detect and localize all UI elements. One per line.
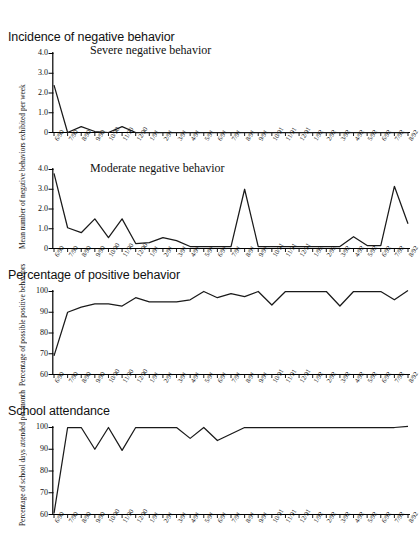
y-tick: 100 xyxy=(36,286,48,295)
plot-moderate xyxy=(52,168,412,250)
data-line-attendance xyxy=(54,426,408,513)
plot-svg-severe xyxy=(52,52,412,134)
plot-positive xyxy=(52,290,412,376)
axis-lines xyxy=(53,426,410,515)
y-tick: 3.0 xyxy=(38,68,48,77)
panel-moderate: 4.0 3.0 2.0 1.0 0 Moderate negative beha… xyxy=(0,160,420,270)
data-line-moderate xyxy=(54,173,408,246)
y-tick: 3.0 xyxy=(38,184,48,193)
panel-title-incidence: Incidence of negative behavior xyxy=(8,30,175,44)
x-axis-labels-positive: 6/907/908/909/9010/9011/9012/901/912/913… xyxy=(52,378,412,402)
data-line-severe xyxy=(54,85,408,132)
figure-root: Incidence of negative behavior Mean numb… xyxy=(0,0,420,556)
axis-lines xyxy=(53,290,410,375)
axis-lines xyxy=(53,168,410,249)
axis-lines xyxy=(53,52,410,133)
plot-svg-positive xyxy=(52,290,412,376)
plot-attendance xyxy=(52,426,412,516)
y-tick: 4.0 xyxy=(38,164,48,173)
y-tick: 0 xyxy=(44,244,48,253)
y-axis-label-attendance: Percentage of school days attended per m… xyxy=(18,426,27,526)
y-tick: 90 xyxy=(40,307,48,316)
y-axis-label-positive: Percentage of possible positive behavior… xyxy=(18,290,27,386)
panel-positive: Percentage of positive behavior Percenta… xyxy=(0,268,420,404)
x-axis-labels-severe: 6/907/908/909/9010/9011/9012/901/912/913… xyxy=(52,136,412,160)
y-tick: 1.0 xyxy=(38,224,48,233)
y-tick: 4.0 xyxy=(38,48,48,57)
data-line-positive xyxy=(54,290,408,355)
y-tick: 70 xyxy=(40,349,48,358)
y-tick: 2.0 xyxy=(38,204,48,213)
panel-severe: Incidence of negative behavior Mean numb… xyxy=(0,30,420,160)
y-tick: 60 xyxy=(40,370,48,379)
y-tick: 90 xyxy=(40,444,48,453)
x-axis-labels-attendance: 6/907/908/909/9010/9011/9012/901/912/913… xyxy=(52,518,412,542)
y-tick: 80 xyxy=(40,328,48,337)
y-tick: 2.0 xyxy=(38,88,48,97)
y-tick: 80 xyxy=(40,466,48,475)
y-tick: 70 xyxy=(40,488,48,497)
plot-severe xyxy=(52,52,412,134)
y-tick: 0 xyxy=(44,128,48,137)
plot-svg-attendance xyxy=(52,426,412,516)
panel-title-positive: Percentage of positive behavior xyxy=(8,268,180,282)
plot-svg-moderate xyxy=(52,168,412,250)
y-tick: 1.0 xyxy=(38,108,48,117)
y-tick: 60 xyxy=(40,510,48,519)
panel-attendance: School attendance Percentage of school d… xyxy=(0,404,420,556)
y-tick: 100 xyxy=(36,422,48,431)
